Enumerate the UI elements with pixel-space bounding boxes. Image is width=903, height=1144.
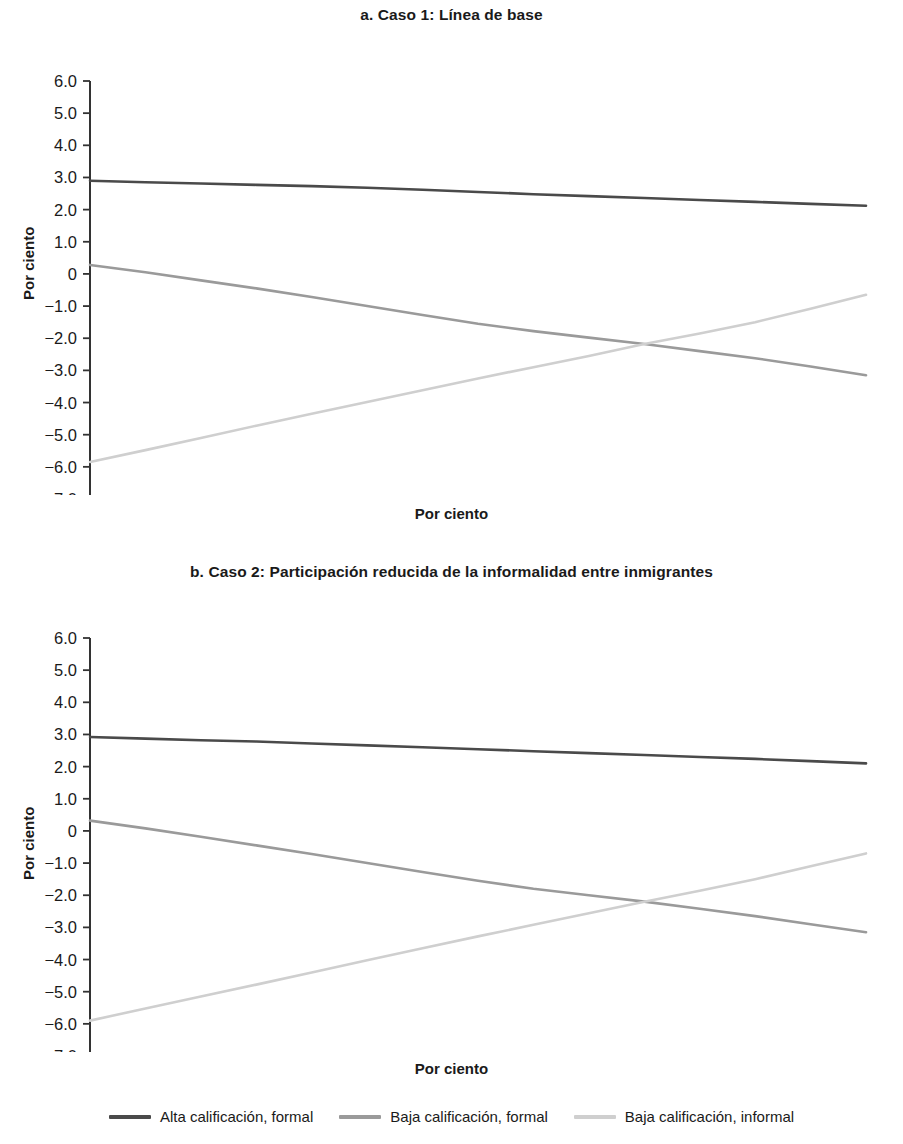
figure-container: a. Caso 1: Línea de base 6.05.04.03.02.0…: [0, 0, 903, 1144]
legend-item-label: Baja calificación, informal: [625, 1108, 794, 1125]
panel-a-plot-area: 6.05.04.03.02.01.00−1.0−2.0−3.0−4.0−5.0−…: [0, 25, 903, 495]
y-axis-tick-label: −3.0: [44, 918, 77, 936]
legend-swatch-icon: [574, 1115, 616, 1119]
y-axis-tick-label: −7.0: [44, 490, 77, 495]
y-axis-tick-label: −5.0: [44, 425, 77, 443]
y-axis-tick-label: 5.0: [54, 104, 77, 122]
legend-item: Alta calificación, formal: [109, 1108, 313, 1125]
chart-line-series: [90, 265, 866, 375]
legend-item: Baja calificación, informal: [574, 1108, 794, 1125]
y-axis-tick-label: −2.0: [44, 329, 77, 347]
y-axis-tick-label: 0: [68, 265, 77, 283]
y-axis-tick-label: −6.0: [44, 457, 77, 475]
chart-line-series: [90, 294, 866, 461]
y-axis-tick-label: −1.0: [44, 297, 77, 315]
y-axis-tick-label: 1.0: [54, 232, 77, 250]
y-axis-tick-label: −4.0: [44, 950, 77, 968]
y-axis-tick-label: 6.0: [54, 629, 77, 647]
y-axis-tick-label: −1.0: [44, 854, 77, 872]
legend-swatch-icon: [339, 1115, 381, 1119]
y-axis-tick-label: 3.0: [54, 168, 77, 186]
panel-b: b. Caso 2: Participación reducida de la …: [0, 545, 903, 1100]
panel-a-title: a. Caso 1: Línea de base: [0, 0, 903, 25]
chart-line-series: [90, 180, 866, 205]
y-axis-tick-label: 3.0: [54, 725, 77, 743]
y-axis-tick-label: −7.0: [44, 1047, 77, 1052]
chart-line-series: [90, 853, 866, 1020]
y-axis-tick-label: 2.0: [54, 200, 77, 218]
y-axis-tick-label: −4.0: [44, 393, 77, 411]
panel-a-y-axis-title: Por ciento: [20, 227, 37, 300]
panel-b-x-axis-title: Por ciento: [0, 1060, 903, 1077]
chart-legend: Alta calificación, formalBaja calificaci…: [0, 1108, 903, 1125]
y-axis-tick-label: −2.0: [44, 886, 77, 904]
panel-b-title: b. Caso 2: Participación reducida de la …: [0, 545, 903, 582]
y-axis-tick-label: −5.0: [44, 982, 77, 1000]
legend-item-label: Baja calificación, formal: [390, 1108, 548, 1125]
panel-a-x-axis-title: Por ciento: [0, 505, 903, 522]
panel-b-plot-area: 6.05.04.03.02.01.00−1.0−2.0−3.0−4.0−5.0−…: [0, 582, 903, 1052]
y-axis-tick-label: 4.0: [54, 136, 77, 154]
y-axis-tick-label: 5.0: [54, 661, 77, 679]
panel-b-chart-svg: 6.05.04.03.02.01.00−1.0−2.0−3.0−4.0−5.0−…: [0, 582, 903, 1052]
panel-b-y-axis-title: Por ciento: [20, 807, 37, 880]
y-axis-tick-label: 1.0: [54, 789, 77, 807]
y-axis-tick-label: 4.0: [54, 693, 77, 711]
legend-swatch-icon: [109, 1115, 151, 1119]
panel-a-chart-svg: 6.05.04.03.02.01.00−1.0−2.0−3.0−4.0−5.0−…: [0, 25, 903, 495]
y-axis-tick-label: 6.0: [54, 72, 77, 90]
y-axis-tick-label: 0: [68, 822, 77, 840]
y-axis-tick-label: 2.0: [54, 757, 77, 775]
y-axis-tick-label: −6.0: [44, 1014, 77, 1032]
panel-a: a. Caso 1: Línea de base 6.05.04.03.02.0…: [0, 0, 903, 545]
legend-item: Baja calificación, formal: [339, 1108, 548, 1125]
chart-line-series: [90, 820, 866, 932]
legend-item-label: Alta calificación, formal: [160, 1108, 313, 1125]
y-axis-tick-label: −3.0: [44, 361, 77, 379]
chart-line-series: [90, 737, 866, 763]
